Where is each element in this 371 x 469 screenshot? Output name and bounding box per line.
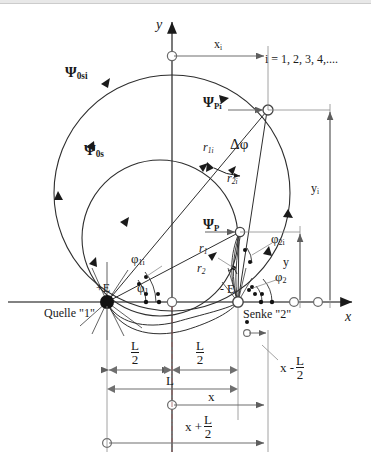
dim-x-minus-halfL-num: L	[296, 354, 304, 367]
radius-r2-label: r2	[197, 262, 205, 275]
angle-phi2i-base: φ	[271, 231, 279, 246]
angle-phi1i-label: φ1i	[131, 252, 145, 267]
leader-x-minus-halfL	[262, 345, 278, 360]
dim-y-label: y	[283, 256, 289, 268]
inner-streamline-label: Ψ0s	[84, 143, 104, 160]
dim-x-plus-halfL-label: x + L 2	[185, 413, 212, 441]
dim-x-plus-halfL-den: 2	[204, 426, 212, 440]
y-axis-label: y	[156, 18, 162, 32]
dim-halfL-left-label: L 2	[131, 339, 139, 367]
x-axis-ref-node-a	[290, 298, 299, 307]
dim-xi-label: xi	[214, 38, 222, 51]
sink-node	[233, 297, 243, 307]
dim-yi-label: yi	[311, 182, 319, 195]
dim-L-label: L	[166, 374, 174, 387]
radius-r2i-sub: 2i	[232, 177, 238, 186]
dim-x-minus-halfL-label: x - L 2	[280, 354, 304, 382]
field-point-Pi-psi: Ψ	[203, 95, 214, 110]
diagram-vector-layer	[0, 0, 371, 469]
dim-x-plus-halfL-lead: x +	[185, 419, 202, 434]
dim-xi-sub: i	[220, 43, 222, 52]
dim-halfL-left-num: L	[131, 339, 139, 352]
angle-phi2i-sub: 2i	[279, 238, 285, 247]
index-note: i = 1, 2, 3, 4,....	[265, 53, 338, 65]
field-point-Pi-label: ΨPi	[203, 96, 222, 111]
angle-phi2-sub: 2	[283, 276, 287, 285]
outer-streamline-sub: 0si	[77, 71, 88, 81]
angle-phi1-label: φ1	[137, 281, 149, 296]
delta-phi-label: Δφ	[230, 137, 248, 152]
radius-r1i-sub: 1i	[208, 146, 214, 155]
outer-streamline-label: Ψ0si	[65, 65, 88, 82]
radius-r1i-label: r1i	[203, 141, 213, 154]
outer-streamline-psi: Ψ	[65, 64, 77, 80]
angle-phi1i-base: φ	[131, 251, 139, 266]
field-point-P-psi: Ψ	[203, 217, 214, 232]
inner-streamline-sub: 0s	[96, 149, 104, 159]
field-point-P-label: ΨP	[203, 218, 219, 233]
source-caption: Quelle "1"	[44, 307, 95, 319]
angle-phi1-sub: 1	[145, 287, 149, 296]
sink-charge-label: - E	[220, 283, 234, 295]
angle-phi2-base: φ	[275, 269, 283, 284]
angle-phi1-base: φ	[137, 280, 145, 295]
figure-canvas: y x xi i = 1, 2, 3, 4,.... yi y Ψ0si Ψ0s…	[0, 0, 371, 469]
dim-halfL-left-den: 2	[131, 352, 139, 366]
angle-arc-phi2i	[263, 279, 272, 302]
field-point-Pi-sub: Pi	[214, 101, 222, 111]
inner-streamline-psi: Ψ	[84, 142, 96, 158]
source-charge-label: +E	[96, 282, 110, 294]
dim-x-label: x	[208, 390, 215, 403]
angle-phi2i-label: φ2i	[271, 232, 285, 247]
radius-r1-sub: 1	[204, 247, 208, 256]
radius-r1-label: r1	[199, 242, 207, 255]
x-axis-label: x	[345, 310, 351, 324]
sink-caption: Senke "2"	[243, 308, 291, 320]
origin-node	[167, 297, 176, 306]
dim-x-minus-halfL-lead: x -	[280, 360, 294, 375]
delta-phi-arrow-left	[206, 162, 214, 172]
dim-x-plus-halfL-num: L	[204, 413, 212, 426]
dim-halfL-right-label: L 2	[196, 339, 204, 367]
x-axis-ref-node-b	[314, 298, 323, 307]
dim-halfL-right-den: 2	[196, 352, 204, 366]
angle-phi1i-sub: 1i	[139, 258, 145, 267]
angle-phi2-label: φ2	[275, 270, 287, 285]
radius-r2-sub: 2	[202, 267, 206, 276]
dim-yi-sub: i	[317, 187, 319, 196]
field-point-P-sub: P	[214, 223, 219, 233]
streamline-direction-markers	[54, 78, 293, 267]
radius-r2i-label: r2i	[227, 172, 237, 185]
dim-halfL-right-num: L	[196, 339, 204, 352]
dim-x-minus-halfL-den: 2	[296, 367, 304, 381]
